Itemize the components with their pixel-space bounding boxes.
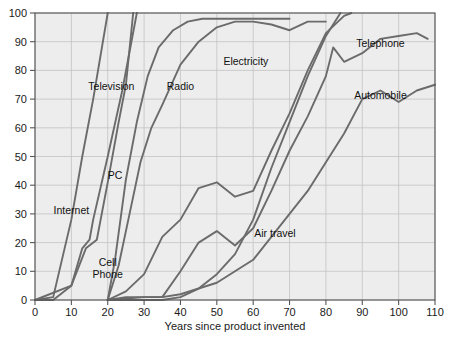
- y-tick-label: 90: [15, 36, 27, 48]
- x-axis-title: Years since product invented: [165, 320, 306, 332]
- series-label-electricity: Electricity: [223, 55, 269, 67]
- series-label-internet: Internet: [54, 204, 90, 216]
- y-tick-label: 0: [21, 294, 27, 306]
- x-tick-label: 30: [138, 306, 150, 318]
- series-label-telephone: Telephone: [356, 37, 405, 49]
- series-label-radio: Radio: [167, 80, 195, 92]
- x-tick-label: 90: [356, 306, 368, 318]
- y-tick-label: 60: [15, 122, 27, 134]
- series-label-television: Television: [88, 80, 134, 92]
- y-tick-label: 100: [9, 7, 27, 19]
- y-tick-label: 10: [15, 265, 27, 277]
- series-label-cell-phone: Phone: [93, 268, 124, 280]
- series-label-automobile: Automobile: [354, 89, 407, 101]
- x-tick-label: 0: [32, 306, 38, 318]
- x-tick-label: 40: [174, 306, 186, 318]
- x-tick-label: 100: [389, 306, 407, 318]
- x-tick-label: 10: [65, 306, 77, 318]
- y-tick-label: 30: [15, 208, 27, 220]
- x-tick-label: 80: [320, 306, 332, 318]
- series-label-air-travel: Air travel: [254, 227, 295, 239]
- y-tick-label: 80: [15, 64, 27, 76]
- y-tick-label: 70: [15, 93, 27, 105]
- x-tick-label: 50: [211, 306, 223, 318]
- y-tick-label: 40: [15, 179, 27, 191]
- x-tick-label: 70: [283, 306, 295, 318]
- series-label-pc: PC: [108, 169, 123, 181]
- x-tick-label: 20: [102, 306, 114, 318]
- adoption-curves-chart: 0102030405060708090100110 01020304050607…: [0, 0, 474, 340]
- chart-canvas: 0102030405060708090100110 01020304050607…: [0, 0, 474, 340]
- y-tick-label: 20: [15, 237, 27, 249]
- x-tick-label: 110: [426, 306, 444, 318]
- x-tick-label: 60: [247, 306, 259, 318]
- y-tick-label: 50: [15, 151, 27, 163]
- series-label-cell-phone: Cell: [99, 256, 117, 268]
